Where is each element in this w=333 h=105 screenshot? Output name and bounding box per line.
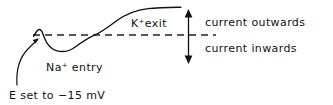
sodium-entry-label: Na⁺ entry xyxy=(46,61,103,74)
outward-direction-arrowhead xyxy=(185,9,193,18)
command-voltage-text: E set to −15 mV xyxy=(9,89,105,102)
command-voltage-pointer-arrow xyxy=(17,40,38,86)
current-inwards-text: current inwards xyxy=(205,42,297,55)
command-voltage-pointer-arrowhead xyxy=(33,38,39,43)
potassium-exit-label: K⁺exit xyxy=(131,17,167,30)
current-outwards-label: current outwards xyxy=(205,16,305,29)
potassium-exit-text: K⁺exit xyxy=(131,17,167,30)
sodium-entry-text: Na⁺ entry xyxy=(46,61,103,74)
command-voltage-label: E set to −15 mV xyxy=(9,89,105,102)
inward-direction-arrowhead xyxy=(185,56,193,65)
voltage-clamp-current-figure: K⁺exit Na⁺ entry current outwards curren… xyxy=(0,0,333,105)
current-outwards-text: current outwards xyxy=(205,16,305,29)
current-inwards-label: current inwards xyxy=(205,42,297,55)
